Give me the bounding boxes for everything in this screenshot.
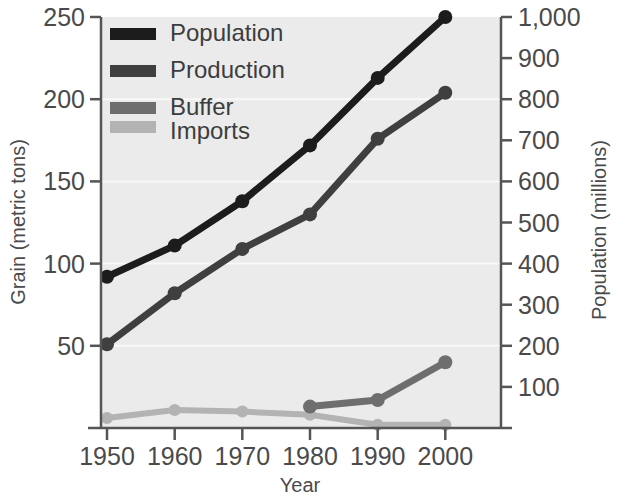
legend-swatch-buffer [110, 102, 156, 114]
y-tick-label: 250 [43, 3, 85, 31]
y-axis-title: Grain (metric tons) [7, 139, 29, 305]
y2-tick-label: 500 [518, 209, 560, 237]
y-tick-label: 50 [57, 332, 85, 360]
y-tick-label: 100 [43, 250, 85, 278]
y2-tick-label: 700 [518, 126, 560, 154]
x-tick-label: 1970 [214, 442, 270, 470]
legend-label-imports: Imports [170, 117, 250, 144]
y2-tick-label: 600 [518, 167, 560, 195]
y-tick-label: 150 [43, 167, 85, 195]
x-tick-label: 2000 [417, 442, 473, 470]
legend-swatch-population [110, 28, 156, 40]
y2-axis-title: Population (millions) [588, 140, 610, 320]
y2-tick-label: 200 [518, 332, 560, 360]
y2-tick-label: 300 [518, 291, 560, 319]
right-axis-tick-labels: 1,000 900 800 700 600 500 400 300 200 10… [518, 3, 581, 401]
y2-tick-label: 400 [518, 250, 560, 278]
chart-container: 250 200 150 100 50 1,000 900 800 700 600… [0, 0, 627, 496]
legend-swatch-imports [110, 121, 156, 133]
x-tick-label: 1960 [147, 442, 203, 470]
x-tick-label: 1980 [282, 442, 338, 470]
legend-swatch-production [110, 65, 156, 77]
legend-label-buffer: Buffer [170, 93, 234, 120]
left-axis [90, 17, 101, 428]
legend-label-population: Population [170, 19, 283, 46]
right-axis [501, 17, 512, 428]
y2-tick-label: 100 [518, 373, 560, 401]
left-axis-tick-labels: 250 200 150 100 50 [43, 3, 85, 360]
y2-tick-label: 900 [518, 44, 560, 72]
line-chart-figure: 250 200 150 100 50 1,000 900 800 700 600… [0, 0, 627, 496]
x-tick-label: 1950 [79, 442, 135, 470]
y2-tick-label: 1,000 [518, 3, 581, 31]
x-axis-title: Year [280, 474, 321, 496]
y2-tick-label: 800 [518, 85, 560, 113]
legend-label-production: Production [170, 56, 285, 83]
x-tick-label: 1990 [350, 442, 406, 470]
x-axis-tick-labels: 1950 1960 1970 1980 1990 2000 [79, 442, 473, 470]
y-tick-label: 200 [43, 85, 85, 113]
